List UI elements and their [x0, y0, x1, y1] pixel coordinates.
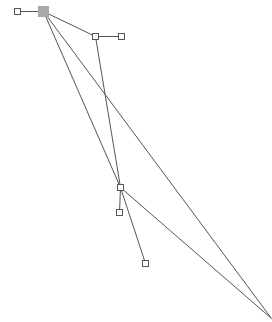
node-handle[interactable]: [15, 9, 21, 15]
edge-n1-n7[interactable]: [44, 12, 272, 319]
node-handle[interactable]: [117, 210, 123, 216]
node-handle[interactable]: [93, 34, 99, 40]
node-handle[interactable]: [118, 185, 124, 191]
edge-n1-n2[interactable]: [44, 12, 96, 37]
node-handle[interactable]: [143, 261, 149, 267]
edge-n4-n7[interactable]: [121, 188, 272, 319]
edge-n4-n5[interactable]: [120, 188, 121, 213]
nodes-layer: [15, 7, 149, 267]
diagram-canvas[interactable]: [0, 0, 272, 322]
edge-n2-n4[interactable]: [96, 37, 121, 188]
node-handle[interactable]: [119, 34, 125, 40]
edges-layer: [18, 12, 272, 319]
selected-node-handle[interactable]: [39, 7, 49, 17]
